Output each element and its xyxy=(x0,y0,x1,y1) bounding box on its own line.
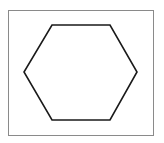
diagram-canvas xyxy=(0,0,164,143)
